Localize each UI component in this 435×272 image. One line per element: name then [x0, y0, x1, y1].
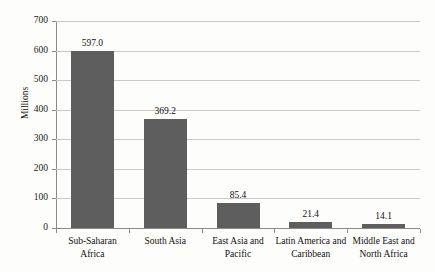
gridline-700 [56, 21, 420, 22]
gridline-0 [56, 228, 420, 229]
bar-value-label: 85.4 [198, 191, 278, 201]
bar [289, 222, 332, 228]
bar-value-label: 597.0 [52, 39, 132, 49]
x-tick-mark [202, 229, 203, 233]
category-label-line: North Africa [343, 248, 424, 261]
bar-value-label: 14.1 [344, 212, 424, 222]
y-tick-label: 300 [0, 134, 48, 144]
category-label-line: Middle East and [343, 235, 424, 248]
x-tick-mark [129, 229, 130, 233]
category-label: East Asia andPacific [198, 235, 279, 260]
x-tick-mark [274, 229, 275, 233]
category-label: Sub-SaharanAfrica [52, 235, 133, 260]
bar [144, 119, 187, 228]
x-tick-mark [420, 229, 421, 233]
x-tick-mark [56, 229, 57, 233]
category-label-line: Sub-Saharan [52, 235, 133, 248]
bar [217, 203, 260, 228]
bar-value-label: 369.2 [125, 107, 205, 117]
y-tick-label: 400 [0, 105, 48, 115]
category-label-line: Africa [52, 248, 133, 261]
category-label-line: South Asia [125, 235, 206, 248]
y-tick-label: 100 [0, 193, 48, 203]
y-tick-label: 0 [0, 223, 48, 233]
category-label-line: Caribbean [270, 248, 351, 261]
category-label-line: East Asia and [198, 235, 279, 248]
category-label: South Asia [125, 235, 206, 248]
x-tick-mark [347, 229, 348, 233]
bar-value-label: 21.4 [271, 210, 351, 220]
category-label-line: Latin America and [270, 235, 351, 248]
category-label: Middle East andNorth Africa [343, 235, 424, 260]
y-tick-label: 500 [0, 75, 48, 85]
category-label-line: Pacific [198, 248, 279, 261]
chart-page: Millions 0100200300400500600700 597.0369… [0, 0, 435, 272]
bar [71, 51, 114, 228]
bar [362, 224, 405, 228]
y-tick-label: 700 [0, 16, 48, 26]
y-tick-label: 600 [0, 46, 48, 56]
category-label: Latin America andCaribbean [270, 235, 351, 260]
y-tick-label: 200 [0, 164, 48, 174]
